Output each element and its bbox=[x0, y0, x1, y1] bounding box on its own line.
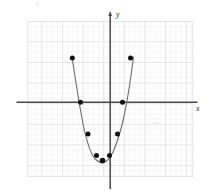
data-point-vertex bbox=[100, 158, 106, 164]
stray-mark-label: y bbox=[36, 0, 39, 7]
data-point bbox=[120, 100, 125, 105]
data-point bbox=[94, 153, 99, 158]
y-axis-label: y bbox=[116, 11, 120, 19]
coordinate-plane-graph bbox=[0, 0, 212, 195]
data-point bbox=[70, 56, 75, 61]
data-point bbox=[107, 153, 112, 158]
page-smudge bbox=[153, 122, 161, 125]
data-point bbox=[78, 100, 83, 105]
data-point bbox=[86, 132, 91, 137]
data-point bbox=[115, 132, 120, 137]
x-axis-label: x bbox=[196, 105, 200, 113]
data-point bbox=[128, 56, 133, 61]
